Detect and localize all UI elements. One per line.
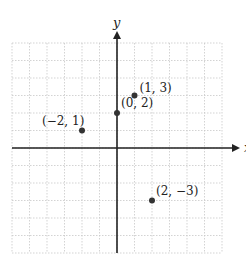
y-axis-label: y bbox=[112, 15, 121, 30]
data-point bbox=[132, 93, 138, 99]
data-point bbox=[79, 128, 85, 134]
x-axis-label: x bbox=[244, 140, 246, 155]
point-label: (−2, 1) bbox=[42, 114, 84, 128]
data-points: (−2, 1)(0, 2)(1, 3)(2, −3) bbox=[42, 81, 198, 204]
x-axis-arrow-icon bbox=[232, 144, 240, 152]
point-label: (2, −3) bbox=[156, 184, 198, 198]
data-point bbox=[114, 110, 120, 116]
point-label: (1, 3) bbox=[140, 81, 172, 95]
y-axis-arrow-icon bbox=[113, 31, 121, 39]
data-point bbox=[149, 198, 155, 204]
coordinate-plane: x y (−2, 1)(0, 2)(1, 3)(2, −3) bbox=[0, 0, 246, 263]
point-label: (0, 2) bbox=[121, 96, 153, 110]
